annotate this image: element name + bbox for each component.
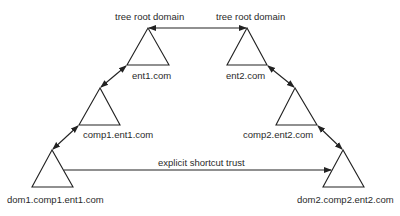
node-label-dom2: dom2.comp2.ent2.com [297, 194, 394, 205]
node-label-dom1: dom1.comp1.ent1.com [7, 194, 104, 205]
domain-triangle-comp1 [79, 88, 120, 125]
trust-arrow-ent2-comp2 [268, 66, 294, 87]
trust-arrow-ent1-comp1 [101, 66, 126, 87]
trust-diagram [0, 0, 400, 216]
node-label-ent2: ent2.com [226, 70, 265, 81]
domain-triangle-ent1 [127, 28, 169, 65]
trust-arrow-comp1-dom1 [53, 126, 78, 149]
domain-triangle-comp2 [276, 88, 317, 125]
domain-triangle-dom1 [32, 150, 73, 187]
domain-triangle-dom2 [323, 150, 364, 187]
domain-triangle-ent2 [227, 28, 267, 65]
tree-root-label-right: tree root domain [216, 11, 285, 22]
node-label-comp1: comp1.ent1.com [83, 129, 153, 140]
trust-arrow-comp2-dom2 [318, 126, 342, 149]
node-label-comp2: comp2.ent2.com [243, 129, 313, 140]
shortcut-trust-label: explicit shortcut trust [158, 157, 245, 168]
node-label-ent1: ent1.com [132, 70, 171, 81]
tree-root-label-left: tree root domain [115, 11, 184, 22]
